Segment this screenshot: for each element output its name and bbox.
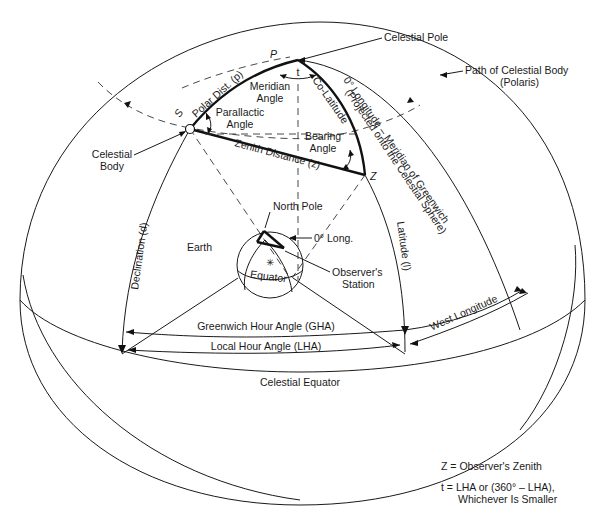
observers-station-label-1: Observer's <box>332 266 382 278</box>
earth-center-mark: ✳ <box>266 257 274 268</box>
equator-label: Equator <box>250 268 289 285</box>
zero-long-label: 0° Long. <box>314 232 353 244</box>
latitude-arc <box>365 175 405 352</box>
celestial-body-label-1: Celestial <box>92 148 132 160</box>
west-longitude-label: West Longitude <box>428 292 500 333</box>
declination-label: Declination (d) <box>128 222 149 291</box>
celestial-body-marker <box>186 125 195 134</box>
zenith-letter-z: Z <box>369 170 377 182</box>
parallactic-angle-label-2: Angle <box>227 118 254 130</box>
north-pole-label: North Pole <box>273 200 323 212</box>
hour-angle-arcs: Greenwich Hour Angle (GHA) Local Hour An… <box>126 286 523 353</box>
meridian-angle-label-1: Meridian <box>250 80 290 92</box>
path-of-body-label-1: Path of Celestial Body <box>465 64 569 76</box>
lha-label: Local Hour Angle (LHA) <box>211 340 321 352</box>
body-letter-s: S <box>171 107 185 119</box>
legend-t-definition-2: Whichever Is Smaller <box>458 493 558 505</box>
gha-label: Greenwich Hour Angle (GHA) <box>197 320 335 332</box>
celestial-equator-label: Celestial Equator <box>260 376 340 388</box>
earth-label: Earth <box>187 241 212 253</box>
path-of-body-label-2: (Polaris) <box>500 76 539 88</box>
parallactic-angle-label-1: Parallactic <box>216 106 264 118</box>
pole-letter-p: P <box>270 48 277 60</box>
legend-t-definition-1: t = LHA or (360° – LHA), <box>441 481 555 493</box>
bearing-angle-label-1: Bearing <box>305 130 341 142</box>
legend-z-definition: Z = Observer's Zenith <box>441 460 542 472</box>
celestial-body-label-2: Body <box>100 160 125 172</box>
celestial-sphere-diagram: Celestial Equator Greenwich H <box>0 0 592 521</box>
observers-station-label-2: Station <box>342 278 375 290</box>
bearing-angle-label-2: Angle <box>310 142 337 154</box>
meridian-greenwich-label-2: (Projected onto the Celestial Sphere) <box>343 86 449 235</box>
legend: Z = Observer's Zenith t = LHA or (360° –… <box>441 460 558 505</box>
meridian-angle-label-2: Angle <box>257 92 284 104</box>
declination-arc <box>122 129 190 352</box>
celestial-pole-leader <box>300 38 382 60</box>
celestial-pole-label: Celestial Pole <box>384 31 448 43</box>
latitude-label: Latitude (l) <box>395 221 414 272</box>
t-symbol: t <box>297 66 300 78</box>
earth: ✳ Earth Equator North Pole 0° Long. Obse… <box>187 200 383 298</box>
